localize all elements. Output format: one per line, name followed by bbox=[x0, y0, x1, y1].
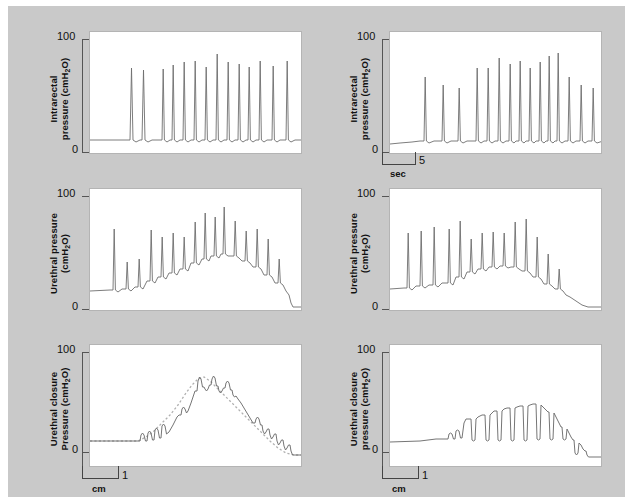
trace-top-left bbox=[90, 32, 302, 154]
y-axis-label-bottom-left: Urethral closure Pressure (cmH2O) bbox=[48, 350, 70, 468]
y-tick-top-label: 100 bbox=[57, 187, 75, 199]
trace-middle-right bbox=[390, 189, 602, 311]
y-tick-bottom-label: 0 bbox=[372, 143, 378, 155]
y-tick-bottom-label: 0 bbox=[72, 300, 78, 312]
y-axis-label-line2: (cmH2O) bbox=[59, 196, 70, 311]
y-tick-top-mark bbox=[382, 196, 389, 197]
y-axis-label-line1: Urethral closure bbox=[48, 372, 59, 446]
trace-middle-left bbox=[90, 189, 302, 311]
scalebar-centimeters-left: 1 cm bbox=[82, 466, 152, 498]
scalebar-centimeters-right: 1 cm bbox=[382, 466, 452, 498]
figure-canvas: Intrarectal pressure (cmH2O) 100 0 Intra… bbox=[8, 6, 625, 497]
y-axis-label-line2: pressure (cmH2O) bbox=[359, 350, 370, 468]
y-tick-bottom-label: 0 bbox=[372, 300, 378, 312]
trace-bottom-left bbox=[90, 345, 302, 467]
y-tick-bottom-label: 0 bbox=[372, 443, 378, 455]
y-axis-label-bottom-right: Urethral closure pressure (cmH2O) bbox=[348, 350, 370, 468]
y-tick-top-mark bbox=[382, 39, 389, 40]
scalebar-value: 1 bbox=[422, 469, 428, 481]
y-axis-label-line1: Urethral closure bbox=[348, 372, 359, 446]
trace-bottom-right bbox=[390, 345, 602, 467]
plot-area-top-left bbox=[89, 31, 302, 154]
y-axis-label-middle-left: Urethral pressure (cmH2O) bbox=[48, 196, 70, 311]
plot-area-top-right bbox=[389, 31, 602, 154]
scalebar-bracket bbox=[382, 152, 416, 165]
y-tick-top-mark bbox=[82, 39, 89, 40]
y-axis-line bbox=[382, 39, 383, 153]
y-tick-top-mark bbox=[82, 196, 89, 197]
y-axis-label-line2: pressure (cmH2O) bbox=[359, 44, 370, 154]
y-axis-label-line1: Intrarectal bbox=[48, 75, 59, 122]
y-axis-label-top-right: Intrarectal pressure (cmH2O) bbox=[348, 44, 370, 154]
y-tick-top-label: 100 bbox=[357, 187, 375, 199]
y-axis-label-line2: pressure (cmH2O) bbox=[59, 44, 70, 154]
scalebar-bracket bbox=[382, 466, 419, 479]
scalebar-unit: sec bbox=[390, 168, 406, 179]
y-axis-label-middle-right: Urethral pressure (cmH2O) bbox=[348, 196, 370, 311]
plot-area-bottom-right bbox=[389, 344, 602, 467]
y-tick-top-label: 100 bbox=[57, 343, 75, 355]
y-axis-line bbox=[382, 352, 383, 467]
y-tick-bottom-mark bbox=[82, 452, 89, 453]
scalebar-unit: cm bbox=[92, 483, 106, 494]
y-axis-line bbox=[82, 39, 83, 153]
y-tick-bottom-label: 0 bbox=[72, 143, 78, 155]
y-tick-top-label: 100 bbox=[357, 343, 375, 355]
y-axis-label-line1: Urethral pressure bbox=[348, 213, 359, 294]
scalebar-bracket bbox=[82, 466, 119, 479]
scalebar-value: 5 bbox=[419, 154, 425, 166]
y-axis-label-line2: Pressure (cmH2O) bbox=[59, 350, 70, 468]
plot-area-bottom-left bbox=[89, 344, 302, 467]
scalebar-unit: cm bbox=[392, 483, 406, 494]
y-tick-bottom-mark bbox=[82, 152, 89, 153]
trace-top-right bbox=[390, 32, 602, 154]
y-axis-label-line1: Urethral pressure bbox=[48, 213, 59, 294]
y-axis-line bbox=[82, 352, 83, 467]
plot-area-middle-right bbox=[389, 188, 602, 311]
y-tick-bottom-label: 0 bbox=[72, 443, 78, 455]
y-axis-label-top-left: Intrarectal pressure (cmH2O) bbox=[48, 44, 70, 154]
y-tick-top-label: 100 bbox=[57, 30, 75, 42]
scalebar-seconds: 5 sec bbox=[382, 152, 442, 182]
y-axis-label-line1: Intrarectal bbox=[348, 75, 359, 122]
y-tick-bottom-mark bbox=[382, 309, 389, 310]
plot-area-middle-left bbox=[89, 188, 302, 311]
y-tick-bottom-mark bbox=[82, 309, 89, 310]
y-axis-label-line2: (cmH2O) bbox=[359, 196, 370, 311]
y-tick-top-mark bbox=[382, 352, 389, 353]
y-tick-top-mark bbox=[82, 352, 89, 353]
y-tick-bottom-mark bbox=[382, 452, 389, 453]
y-tick-top-label: 100 bbox=[357, 30, 375, 42]
scalebar-value: 1 bbox=[122, 469, 128, 481]
